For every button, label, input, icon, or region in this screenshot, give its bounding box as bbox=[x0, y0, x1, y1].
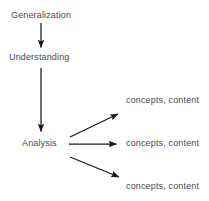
connector-analysis-to-leaf-0 bbox=[70, 114, 118, 137]
connector-analysis-to-leaf-2 bbox=[70, 157, 119, 177]
node-understanding: Understanding bbox=[9, 52, 70, 63]
diagram-canvas: Generalization Understanding Analysis co… bbox=[0, 0, 209, 201]
node-concepts-content-2: concepts, content bbox=[126, 138, 199, 149]
node-analysis: Analysis bbox=[22, 138, 57, 149]
node-generalization: Generalization bbox=[11, 10, 71, 21]
node-concepts-content-1: concepts, content bbox=[126, 95, 199, 106]
node-concepts-content-3: concepts, content bbox=[126, 181, 199, 192]
